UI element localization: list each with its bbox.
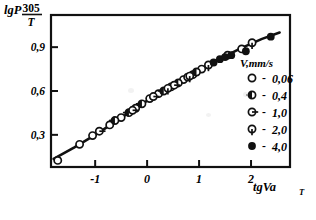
legend-value-label: 2,0 — [271, 123, 287, 137]
scan-artifact — [243, 92, 248, 97]
legend-value-label: 0,06 — [272, 72, 293, 86]
x-axis-tick-labels: -1012 — [90, 172, 254, 186]
y-axis-title: lgP 305 T — [4, 2, 42, 29]
x-axis-title: tgVa T — [253, 180, 305, 197]
y-axis-tick-labels: 0,30,60,9 — [31, 41, 46, 141]
legend-dash: - — [262, 123, 266, 135]
legend-dash: - — [262, 140, 266, 152]
legend-value-label: 4,0 — [271, 140, 287, 154]
y-tick-label: 0,6 — [31, 85, 46, 97]
legend-value-label: 0,4 — [272, 89, 287, 103]
legend-marker-icon — [248, 74, 255, 81]
legend-dash: - — [262, 72, 266, 84]
y-tick-label: 0,3 — [31, 129, 46, 141]
x-tick-label: 0 — [144, 172, 150, 186]
x-axis-title-text: tgVa — [253, 180, 276, 194]
data-point — [89, 132, 96, 139]
data-point — [267, 33, 275, 41]
x-tick-label: -1 — [90, 172, 100, 186]
x-axis-title-subscript: T — [299, 187, 305, 197]
legend-title: V,mm/s — [240, 57, 273, 69]
scan-artifact — [128, 88, 134, 93]
legend-dash: - — [262, 89, 266, 101]
y-axis-title-lgp: lgP — [4, 3, 22, 17]
data-point — [227, 51, 235, 59]
data-point — [242, 47, 250, 55]
y-axis-title-denominator: T — [27, 16, 35, 28]
y-axis-title-numerator: 305 — [22, 2, 40, 14]
figure-root: 0,30,60,9 -1012 lgP 305 T tgVa T V,mm/s … — [0, 0, 316, 220]
y-tick-label: 0,9 — [31, 41, 46, 53]
x-tick-label: 1 — [196, 172, 202, 186]
legend-value-label: 1,0 — [272, 106, 287, 120]
scan-artifact — [206, 113, 211, 117]
legend-dash: - — [262, 106, 266, 118]
data-point — [54, 157, 61, 164]
legend-marker-icon — [248, 142, 256, 150]
data-point — [76, 141, 83, 148]
